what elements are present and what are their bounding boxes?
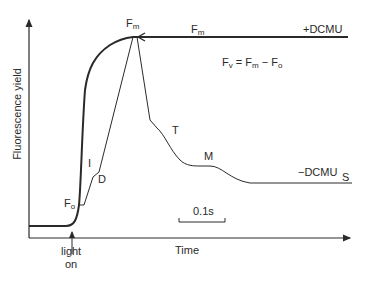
scale-bar xyxy=(179,218,225,222)
plus-dcmu-label: +DCMU xyxy=(303,24,342,35)
light-label: light xyxy=(61,246,81,257)
kautsky-curve-diagram xyxy=(0,0,368,283)
t-label: T xyxy=(172,125,179,136)
minus-dcmu-label: −DCMU xyxy=(298,167,337,178)
s-label: S xyxy=(342,172,349,183)
m-label: M xyxy=(204,151,213,162)
d-label: D xyxy=(98,174,106,185)
x-axis-label: Time xyxy=(175,245,199,256)
minus-dcmu-curve xyxy=(80,37,352,205)
on-label: on xyxy=(65,259,77,270)
scale-bar-label: 0.1s xyxy=(193,206,214,217)
fm-peak-label: Fm xyxy=(126,18,139,31)
y-axis-label: Fluorescence yield xyxy=(11,59,23,169)
plus-dcmu-curve xyxy=(29,37,348,226)
fo-label: Fo xyxy=(64,198,75,211)
i-label: I xyxy=(88,158,91,169)
fv-equation: Fv = Fm − Fo xyxy=(222,57,282,70)
fm-plateau-label: Fm xyxy=(191,24,204,37)
